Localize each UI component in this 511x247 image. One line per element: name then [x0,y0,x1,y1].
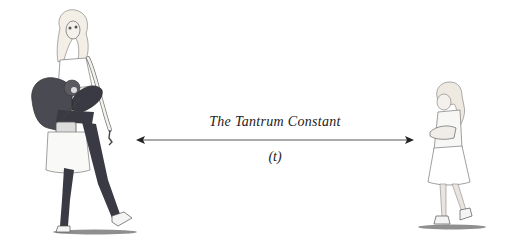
child-figure [400,60,500,247]
variable-label: (t) [140,149,410,165]
double-arrow-icon [136,134,414,146]
diagram-title: The Tantrum Constant [140,114,410,130]
mother-figure [20,0,160,247]
